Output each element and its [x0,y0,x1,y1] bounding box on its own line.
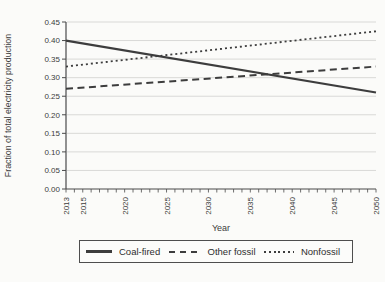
y-tick-label: 0.00 [44,185,60,194]
y-tick-label: 0.25 [44,92,60,101]
legend-label-coal-fired: Coal-fired [119,246,160,257]
x-tick-label: 2045 [330,196,339,214]
y-tick-label: 0.05 [44,166,60,175]
y-tick-label: 0.30 [44,73,60,82]
y-axis-title: Fraction of total electricity production [3,34,13,177]
dotted-line-sample-icon [264,251,294,253]
line-chart-canvas: 0.000.050.100.150.200.250.300.350.400.45… [0,0,385,236]
x-tick-label: 2025 [163,196,172,214]
electricity-production-chart-figure: 0.000.050.100.150.200.250.300.350.400.45… [0,0,385,282]
y-tick-label: 0.45 [44,18,60,27]
y-tick-label: 0.35 [44,55,60,64]
x-tick-label: 2015 [79,196,88,214]
x-tick-label: 2020 [121,196,130,214]
x-tick-label: 2040 [288,196,297,214]
solid-line-sample-icon [86,250,112,252]
x-tick-label: 2013 [62,196,71,214]
y-tick-label: 0.40 [44,36,60,45]
x-tick-label: 2035 [246,196,255,214]
legend-item-coal-fired: Coal-fired [86,246,160,257]
chart-legend: Coal-fired Other fossil Nonfossil [79,240,353,263]
legend-item-other-fossil: Other fossil [169,246,256,257]
x-axis-title: Year [212,223,230,233]
legend-label-other-fossil: Other fossil [208,246,256,257]
legend-item-nonfossil: Nonfossil [264,246,340,257]
y-tick-label: 0.15 [44,129,60,138]
y-tick-label: 0.20 [44,111,60,120]
x-tick-label: 2030 [204,196,213,214]
x-tick-label: 2050 [372,196,381,214]
legend-label-nonfossil: Nonfossil [301,246,340,257]
dashed-line-sample-icon [169,251,201,253]
y-tick-label: 0.10 [44,148,60,157]
